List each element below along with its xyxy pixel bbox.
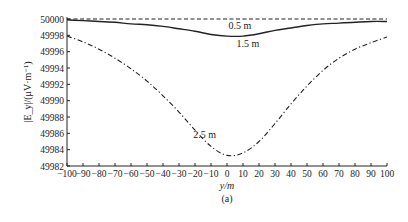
x-tick-label: −30 — [172, 169, 187, 179]
x-axis-ticks: −100−90−80−70−60−50−40−30−20−10010203040… — [57, 163, 394, 179]
series-1-5-m-line — [67, 20, 387, 37]
y-tick-label: 49992 — [40, 80, 64, 90]
y-tick-label: 49996 — [40, 47, 64, 57]
series-2-5-m-line — [67, 36, 387, 156]
curve-label: 1.5 m — [236, 38, 259, 49]
x-tick-label: −40 — [156, 169, 171, 179]
x-tick-label: −70 — [108, 169, 123, 179]
x-tick-label: −100 — [57, 169, 77, 179]
x-tick-label: 40 — [286, 169, 296, 179]
x-tick-label: 0 — [225, 169, 230, 179]
x-tick-label: 30 — [270, 169, 280, 179]
x-tick-label: −50 — [140, 169, 155, 179]
y-tick-label: 49994 — [40, 64, 64, 74]
y-axis-title: |E_y|/(μV·m⁻¹) — [22, 61, 34, 122]
x-tick-label: 90 — [366, 169, 376, 179]
x-tick-label: −80 — [92, 169, 107, 179]
x-tick-label: 70 — [334, 169, 344, 179]
y-tick-label: 50000 — [40, 15, 64, 25]
curve-label: 0.5 m — [228, 20, 251, 31]
y-axis-ticks: 4998249984499864998849990499924999449996… — [40, 15, 70, 172]
x-tick-label: 60 — [318, 169, 328, 179]
x-tick-label: 80 — [350, 169, 360, 179]
panel-label: (a) — [221, 193, 232, 205]
curve-labels: 0.5 m1.5 m2.5 m — [193, 20, 259, 140]
curves — [67, 19, 387, 156]
x-tick-label: 10 — [238, 169, 248, 179]
x-tick-label: −20 — [188, 169, 203, 179]
y-tick-label: 49998 — [40, 31, 64, 41]
y-tick-label: 49984 — [40, 145, 64, 155]
y-tick-label: 49988 — [40, 113, 64, 123]
line-chart: 4998249984499864998849990499924999449996… — [0, 0, 408, 222]
x-tick-label: 100 — [380, 169, 395, 179]
x-tick-label: 20 — [254, 169, 264, 179]
y-tick-label: 49990 — [40, 96, 64, 106]
curve-label: 2.5 m — [193, 129, 216, 140]
x-tick-label: −10 — [204, 169, 219, 179]
x-tick-label: −60 — [124, 169, 139, 179]
x-tick-label: 50 — [302, 169, 312, 179]
y-tick-label: 49986 — [40, 129, 64, 139]
x-tick-label: −90 — [76, 169, 91, 179]
x-axis-title: y/m — [219, 180, 234, 191]
